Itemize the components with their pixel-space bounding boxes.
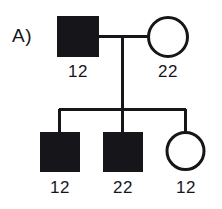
individual-symbol-mother[interactable] <box>149 18 188 57</box>
genotype-label-mother: 22 <box>138 62 198 82</box>
panel-label: A) <box>12 25 32 47</box>
pedigree-chart-panel: A) 12 22 12 22 12 <box>0 0 222 209</box>
genotype-label-father: 12 <box>48 62 108 82</box>
individual-symbol-child-1[interactable] <box>42 134 79 171</box>
individual-symbol-child-3[interactable] <box>167 133 204 170</box>
genotype-label-child-1: 12 <box>30 178 90 198</box>
genotype-label-child-3: 12 <box>156 178 216 198</box>
individual-symbol-child-2[interactable] <box>105 134 142 171</box>
individual-symbol-father[interactable] <box>59 18 98 56</box>
genotype-label-child-2: 22 <box>93 178 153 198</box>
